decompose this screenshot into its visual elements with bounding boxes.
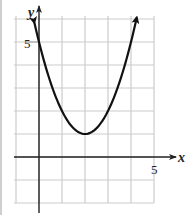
parabola-chart: y x 5 5 (0, 0, 193, 215)
y-tick-5: 5 (24, 36, 31, 51)
x-tick-5: 5 (151, 162, 158, 177)
x-axis-label: x (177, 150, 185, 165)
grid (14, 16, 154, 203)
y-axis-label: y (26, 5, 35, 20)
